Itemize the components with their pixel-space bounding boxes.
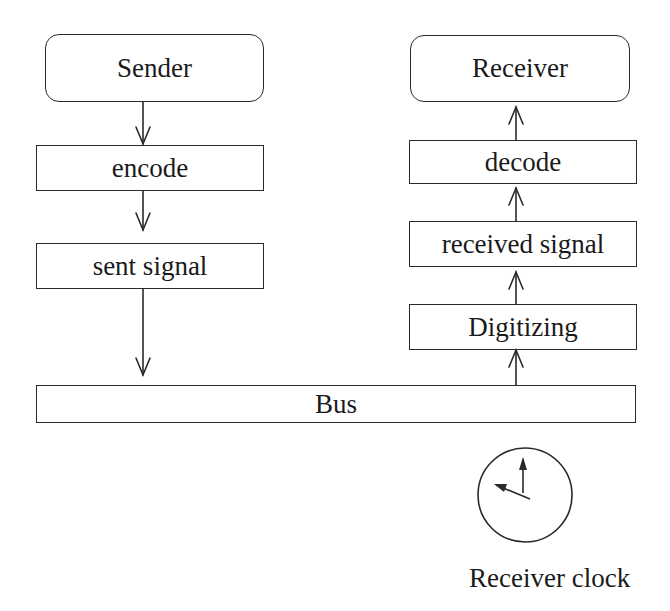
arrow-digitizing-to-received-signal xyxy=(509,272,523,304)
arrow-sender-to-encode xyxy=(136,102,150,144)
arrow-sent-signal-to-bus xyxy=(136,289,150,375)
clock-icon xyxy=(478,448,572,542)
arrow-received-signal-to-decode xyxy=(509,188,523,221)
receiver-clock-label: Receiver clock xyxy=(469,563,630,594)
connectors-layer xyxy=(0,0,670,611)
arrow-bus-to-digitizing xyxy=(509,350,523,385)
arrow-encode-to-sent-signal xyxy=(136,191,150,230)
arrow-decode-to-receiver xyxy=(509,107,523,140)
